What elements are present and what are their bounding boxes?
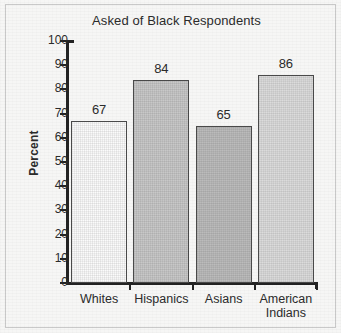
y-axis-tick-label: 90 [22, 57, 68, 71]
bar-value-label: 84 [131, 61, 191, 76]
category-label-line: Whites [64, 292, 134, 306]
x-axis-category-label: Whites [64, 292, 134, 306]
x-axis-tick [254, 284, 256, 290]
bar-fill-texture [197, 127, 251, 282]
chart-title: Asked of Black Respondents [0, 13, 341, 28]
bar-value-label: 67 [69, 102, 129, 117]
y-axis-tick-label: 40 [22, 178, 68, 192]
category-label-line: Asians [189, 292, 259, 306]
x-axis-category-label: Asians [189, 292, 259, 306]
y-axis-tick-label: 60 [22, 130, 68, 144]
category-label-line: American [251, 292, 321, 306]
bar-fill-texture [259, 76, 313, 282]
y-axis-tick-label: 30 [22, 202, 68, 216]
chart-figure: Asked of Black Respondents Percent 10090… [0, 0, 341, 333]
bar [133, 80, 189, 283]
bar [258, 75, 314, 283]
bar [196, 126, 252, 283]
bar-value-label: 86 [256, 56, 316, 71]
y-axis-tick-label: 100 [22, 33, 68, 47]
category-label-line: Hispanics [126, 292, 196, 306]
y-axis-tick-label: 80 [22, 81, 68, 95]
y-axis-tick-label: 70 [22, 106, 68, 120]
x-axis-tick [192, 284, 194, 290]
bar [71, 121, 127, 283]
bar-fill-texture [72, 122, 126, 282]
bar-value-label: 65 [194, 107, 254, 122]
x-axis-tick [129, 284, 131, 290]
x-axis-tick [316, 284, 318, 290]
y-axis-tick-label: 50 [22, 154, 68, 168]
category-label-line: Indians [251, 306, 321, 320]
y-axis-tick-label: 20 [22, 227, 68, 241]
y-axis-tick-label: 10 [22, 251, 68, 265]
y-axis-tick-label: 0 [22, 275, 68, 289]
bar-fill-texture [134, 81, 188, 282]
x-axis-category-label: AmericanIndians [251, 292, 321, 320]
x-axis-category-label: Hispanics [126, 292, 196, 306]
